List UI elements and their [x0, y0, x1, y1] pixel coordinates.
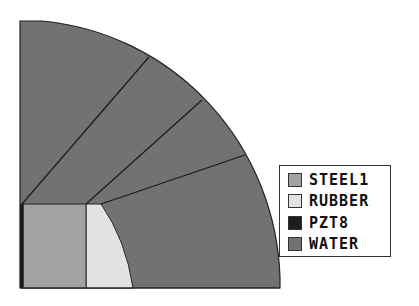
mesh-diagram	[0, 0, 419, 306]
legend-item-water: WATER	[288, 234, 390, 256]
legend-label: WATER	[309, 235, 359, 253]
legend: STEEL1 RUBBER PZT8 WATER	[279, 165, 391, 257]
pzt8-swatch-icon	[288, 216, 302, 230]
legend-label: RUBBER	[309, 192, 369, 210]
legend-item-rubber: RUBBER	[288, 191, 390, 213]
rubber-swatch-icon	[288, 194, 302, 208]
steel1-region	[23, 204, 86, 288]
legend-label: PZT8	[309, 214, 349, 232]
legend-item-steel1: STEEL1	[288, 169, 390, 191]
water-swatch-icon	[288, 237, 302, 251]
steel1-swatch-icon	[288, 173, 302, 187]
legend-item-pzt8: PZT8	[288, 212, 390, 234]
legend-label: STEEL1	[309, 171, 369, 189]
pzt8-region	[20, 204, 24, 288]
